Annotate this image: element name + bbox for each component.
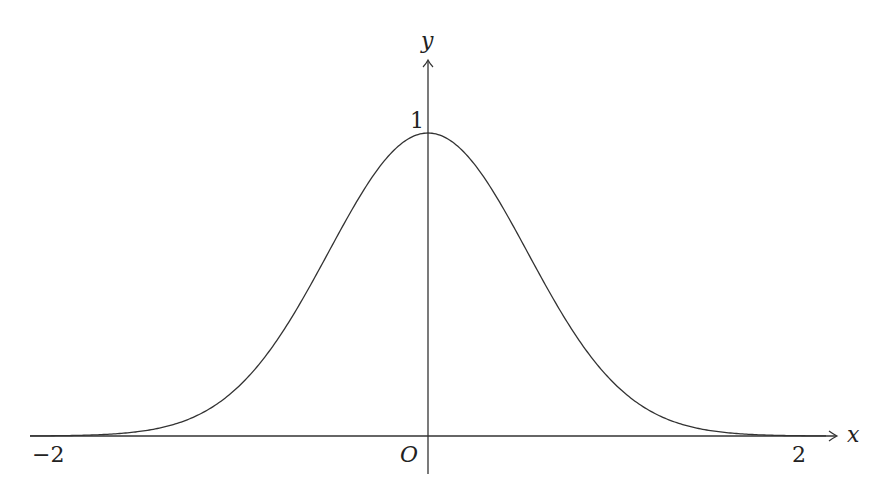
x-tick-label-neg2: −2 bbox=[32, 444, 64, 466]
y-tick-label-1: 1 bbox=[410, 110, 424, 132]
x-axis-label: x bbox=[847, 424, 859, 446]
origin-label: O bbox=[400, 444, 418, 466]
y-axis-label: y bbox=[421, 30, 433, 52]
plot-canvas bbox=[0, 0, 881, 498]
x-tick-label-2: 2 bbox=[792, 444, 806, 466]
